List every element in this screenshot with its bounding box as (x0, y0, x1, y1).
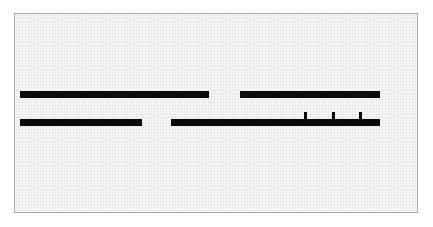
bar-segment-upper-rule-1 (20, 91, 209, 98)
tick-mark-lower-rule-1 (304, 112, 307, 119)
bar-segment-lower-rule-2 (171, 119, 380, 126)
diagram-frame (14, 13, 418, 213)
tick-mark-lower-rule-3 (359, 112, 362, 119)
bar-segment-lower-rule-1 (20, 119, 142, 126)
bar-segment-upper-rule-2 (240, 91, 380, 98)
figure-canvas (0, 0, 433, 227)
tick-mark-lower-rule-2 (332, 112, 335, 119)
